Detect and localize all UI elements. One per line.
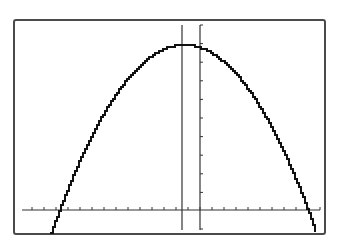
y-axis	[200, 25, 203, 230]
parabola-curve	[50, 44, 316, 234]
x-axis	[22, 207, 320, 210]
parabola-plot	[0, 0, 343, 250]
